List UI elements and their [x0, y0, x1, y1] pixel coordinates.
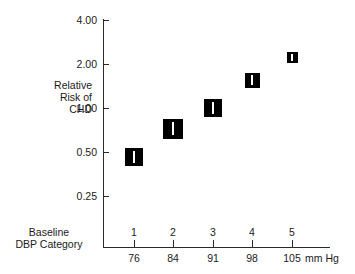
x-axis-value-label: 76: [117, 253, 151, 264]
y-axis-tick-label: 0.50: [77, 147, 97, 158]
y-axis-tick: [103, 196, 109, 197]
confidence-interval-bar: [251, 75, 253, 85]
x-axis-label-line-1: Baseline: [4, 226, 94, 238]
chart-figure: Relative Risk of CHD Baseline DBP Catego…: [0, 0, 355, 274]
x-axis-label: Baseline DBP Category: [4, 226, 94, 250]
x-axis-value-label: 98: [235, 253, 269, 264]
x-axis-tick: [252, 240, 253, 248]
x-axis-unit-label: mm Hg: [305, 253, 339, 264]
y-axis-tick: [103, 64, 109, 65]
x-axis-tick: [213, 240, 214, 248]
data-point-marker: [163, 119, 183, 139]
confidence-interval-bar: [291, 54, 293, 61]
y-axis-tick-label: 4.00: [77, 15, 97, 26]
data-point-marker: [204, 99, 222, 117]
confidence-interval-bar: [133, 151, 135, 163]
y-axis-tick: [103, 108, 109, 109]
y-axis-tick-label: 1.00: [77, 103, 97, 114]
x-axis-value-label: 91: [196, 253, 230, 264]
confidence-interval-bar: [212, 102, 214, 114]
x-axis-category-label: 3: [198, 227, 228, 238]
x-axis-category-label: 5: [277, 227, 307, 238]
y-axis-tick: [103, 152, 109, 153]
x-axis-category-label: 1: [119, 227, 149, 238]
x-axis-category-label: 4: [237, 227, 267, 238]
data-point-marker: [287, 52, 298, 63]
x-axis-line: [103, 247, 330, 248]
confidence-interval-bar: [172, 122, 174, 135]
y-axis-tick-label: 2.00: [77, 59, 97, 70]
x-axis-tick: [173, 240, 174, 248]
x-axis-value-label: 105: [275, 253, 309, 264]
y-axis-tick-label: 0.25: [77, 191, 97, 202]
y-axis-line: [103, 19, 104, 248]
y-axis-label-line-1: Relative: [8, 79, 92, 91]
x-axis-tick: [292, 240, 293, 248]
x-axis-label-line-2: DBP Category: [4, 238, 94, 250]
data-point-marker: [125, 148, 143, 166]
x-axis-category-label: 2: [158, 227, 188, 238]
x-axis-tick: [134, 240, 135, 248]
y-axis-tick: [103, 20, 109, 21]
x-axis-value-label: 84: [156, 253, 190, 264]
data-point-marker: [245, 73, 260, 88]
